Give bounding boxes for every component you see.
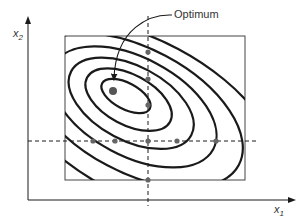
point	[145, 138, 150, 143]
point	[112, 138, 117, 143]
point	[145, 49, 150, 54]
x-axis-label-sub: 1	[280, 209, 284, 218]
contour-5	[5, 1, 268, 219]
point	[213, 138, 218, 143]
x-axis-label: x1	[274, 203, 284, 218]
contour-6	[0, 0, 307, 223]
point	[145, 102, 150, 107]
point	[90, 138, 95, 143]
x-axis-arrow-icon	[288, 197, 296, 203]
axes	[25, 16, 296, 203]
y-axis-label-sub: 2	[19, 33, 23, 42]
y-axis-label: x2	[13, 27, 23, 42]
optimum-point	[109, 87, 117, 95]
point	[145, 177, 150, 182]
contour-diagram	[0, 0, 307, 223]
optimum-label: Optimum	[174, 8, 219, 20]
point	[145, 76, 150, 81]
contour-3	[54, 39, 209, 168]
y-axis-arrow-icon	[25, 16, 31, 24]
contour-lines	[0, 0, 307, 223]
contour-4	[31, 21, 236, 192]
point	[174, 138, 179, 143]
